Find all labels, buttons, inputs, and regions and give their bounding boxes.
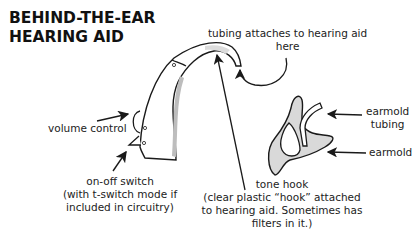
label-line: tone hook (200, 178, 364, 191)
on-off-switch (129, 136, 141, 145)
earmold-arrow (328, 152, 366, 153)
label-on-off-switch: on-off switch (with t-switch mode if inc… (58, 175, 182, 214)
label-line: (clear plastic “hook” attached (200, 191, 364, 204)
earmold-tubing-arrow (328, 114, 362, 115)
label-line: included in circuitry) (58, 201, 182, 214)
label-line: to hearing aid. Sometimes has (200, 204, 364, 217)
volume-control-dial (133, 111, 140, 133)
label-line: (with t-switch mode if (58, 188, 182, 201)
label-line: tubing (366, 118, 409, 131)
label-tone-hook: tone hook (clear plastic “hook” attached… (200, 178, 364, 230)
label-line: earmold (366, 105, 409, 118)
label-volume-control: volume control (48, 122, 127, 135)
tubing-attach-arrow (240, 58, 287, 85)
label-line: tubing attaches to hearing aid (208, 27, 367, 40)
on-off-switch-arrow (113, 152, 126, 171)
label-earmold-tubing: earmold tubing (366, 105, 409, 131)
label-line: here (208, 40, 367, 53)
volume-control-arrow (97, 114, 128, 121)
hearing-aid-body (140, 43, 241, 160)
label-line: on-off switch (58, 175, 182, 188)
label-tubing-attaches: tubing attaches to hearing aid here (208, 27, 367, 53)
label-line: filters in it.) (200, 217, 364, 230)
label-earmold: earmold (369, 146, 412, 159)
